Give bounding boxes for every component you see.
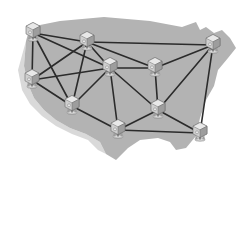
node-southeast[interactable] [190,121,210,143]
server-node-icon [148,98,168,120]
server-node-icon [23,21,43,43]
server-node-icon [100,56,120,78]
server-node-icon [22,68,42,90]
server-node-icon [190,121,210,143]
network-map-canvas [0,0,245,243]
node-northwest[interactable] [23,21,43,43]
server-node-icon [145,56,165,78]
node-southeast-mid[interactable] [148,98,168,120]
node-west[interactable] [22,68,42,90]
node-layer [0,0,245,243]
server-node-icon [77,30,97,52]
node-southwest[interactable] [62,94,82,116]
node-mountain[interactable] [100,56,120,78]
node-north-central[interactable] [77,30,97,52]
node-south-central[interactable] [108,118,128,140]
node-midwest[interactable] [145,56,165,78]
server-node-icon [62,94,82,116]
server-node-icon [203,33,223,55]
node-northeast[interactable] [203,33,223,55]
server-node-icon [108,118,128,140]
